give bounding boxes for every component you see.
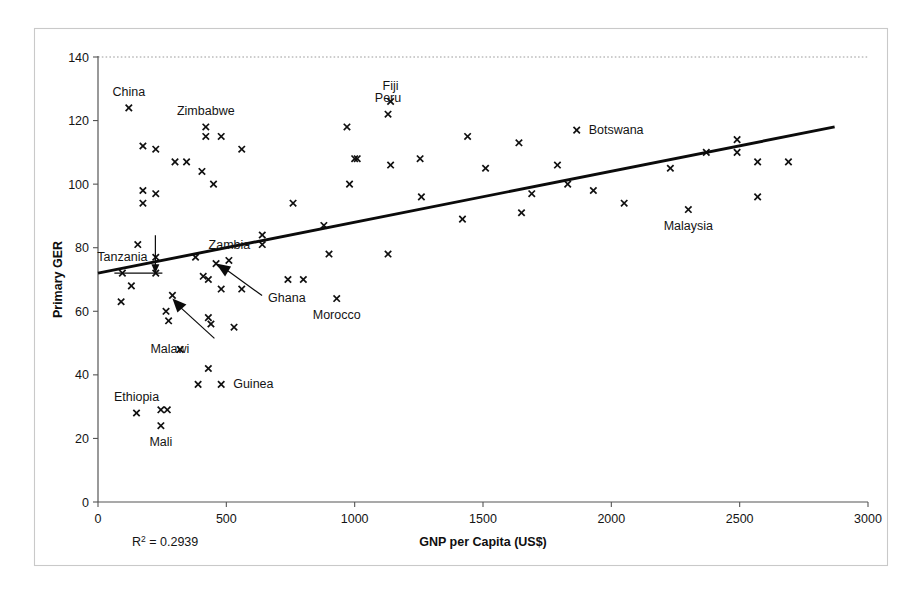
x-tick-label-2500: 2500 bbox=[726, 512, 754, 526]
point-label-peru: Peru bbox=[375, 91, 401, 105]
y-tick-label-40: 40 bbox=[75, 368, 89, 382]
point-label-zimbabwe: Zimbabwe bbox=[177, 104, 235, 118]
point-label-guinea: Guinea bbox=[233, 377, 273, 391]
x-tick-label-1500: 1500 bbox=[469, 512, 497, 526]
point-label-mali: Mali bbox=[149, 435, 172, 449]
point-label-ethiopia: Ethiopia bbox=[114, 390, 159, 404]
x-tick-label-2000: 2000 bbox=[597, 512, 625, 526]
y-tick-label-100: 100 bbox=[68, 178, 89, 192]
x-tick-label-500: 500 bbox=[216, 512, 237, 526]
point-label-tanzania: Tanzania bbox=[97, 250, 147, 264]
point-label-morocco: Morocco bbox=[313, 308, 361, 322]
x-tick-label-0: 0 bbox=[95, 512, 102, 526]
y-tick-label-0: 0 bbox=[82, 496, 89, 510]
y-tick-label-140: 140 bbox=[68, 51, 89, 65]
point-label-malaysia: Malaysia bbox=[664, 219, 713, 233]
y-tick-label-60: 60 bbox=[75, 305, 89, 319]
x-tick-label-3000: 3000 bbox=[854, 512, 882, 526]
y-tick-label-20: 20 bbox=[75, 432, 89, 446]
y-axis-title: Primary GER bbox=[51, 241, 65, 318]
point-label-ghana: Ghana bbox=[268, 291, 306, 305]
scatter-chart-figure: 0204060801001201400500100015002000250030… bbox=[0, 0, 920, 602]
point-label-zambia: Zambia bbox=[209, 238, 251, 252]
x-tick-label-1000: 1000 bbox=[341, 512, 369, 526]
point-label-botswana: Botswana bbox=[589, 123, 644, 137]
point-label-china: China bbox=[112, 85, 145, 99]
y-tick-label-120: 120 bbox=[68, 114, 89, 128]
x-axis-title: GNP per Capita (US$) bbox=[419, 535, 547, 549]
y-tick-label-80: 80 bbox=[75, 241, 89, 255]
chart-svg: 0204060801001201400500100015002000250030… bbox=[0, 0, 920, 602]
point-label-malawi: Malawi bbox=[150, 342, 189, 356]
